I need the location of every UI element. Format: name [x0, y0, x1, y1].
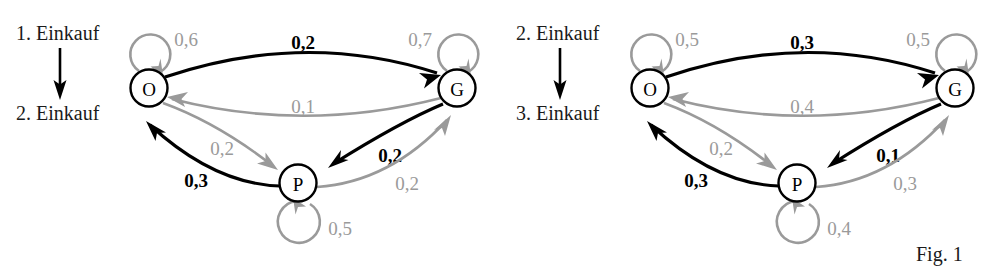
node-p-right: P [779, 165, 816, 202]
g-self-loop-path-left [438, 35, 478, 72]
edge-label-p-self-left: 0,5 [328, 218, 352, 239]
o-self-loop-path-left [130, 35, 170, 72]
node-p-label-right: P [792, 174, 803, 195]
g-to-p-arrowhead-right [827, 150, 848, 168]
panel-left: 1. Einkauf 2. Einkauf 0,6 0,7 0,5 0, [16, 22, 478, 243]
figure-caption: Fig. 1 [916, 243, 963, 266]
step-annotation-right: 2. Einkauf 3. Einkauf [516, 22, 600, 124]
edge-label-p-to-o-left: 0,3 [184, 170, 208, 191]
edge-p-self-right: 0,4 [777, 198, 852, 243]
edge-label-p-to-g-right: 0,3 [893, 173, 917, 194]
p-self-loop-path-left [278, 201, 320, 243]
edge-label-o-to-p-right: 0,2 [709, 138, 733, 159]
edge-label-o-to-g-right: 0,3 [790, 32, 814, 53]
edge-label-o-to-p-left: 0,2 [210, 138, 234, 159]
node-o-label-right: O [643, 79, 657, 100]
node-p-left: P [280, 165, 317, 202]
g-to-p-arrowhead-left [328, 150, 349, 168]
node-g-label-left: G [450, 79, 464, 100]
node-o-label-left: O [142, 79, 156, 100]
edge-label-g-to-o-left: 0,1 [291, 96, 315, 117]
edge-label-o-self-right: 0,5 [675, 29, 699, 50]
edge-label-g-self-left: 0,7 [408, 29, 432, 50]
edge-label-p-to-g-left: 0,2 [395, 173, 419, 194]
panel-right: 2. Einkauf 3. Einkauf 0,5 0,5 0,4 0, [516, 22, 976, 243]
edge-g-to-o-right: 0,4 [668, 92, 939, 117]
p-to-g-arrowhead-left [434, 115, 451, 136]
edge-label-p-to-o-right: 0,3 [684, 170, 708, 191]
step-to-label-right: 3. Einkauf [516, 102, 600, 124]
node-g-label-right: G [948, 79, 962, 100]
edge-label-o-self-left: 0,6 [174, 29, 198, 50]
node-g-left: G [439, 70, 476, 107]
edge-p-self-left: 0,5 [278, 198, 352, 243]
edge-label-g-to-o-right: 0,4 [790, 96, 814, 117]
edge-g-to-o-left: 0,1 [167, 92, 441, 117]
g-self-loop-path-right [936, 35, 976, 72]
edge-label-g-self-right: 0,5 [906, 29, 930, 50]
edge-label-o-to-g-left: 0,2 [291, 32, 315, 53]
node-o-left: O [131, 70, 168, 107]
step-from-label-right: 2. Einkauf [516, 22, 600, 44]
step-annotation-left: 1. Einkauf 2. Einkauf [16, 22, 100, 124]
node-o-right: O [632, 70, 669, 107]
step-from-label-left: 1. Einkauf [16, 22, 100, 44]
figure-container: 1. Einkauf 2. Einkauf 0,6 0,7 0,5 0, [0, 0, 995, 278]
step-to-label-left: 2. Einkauf [16, 102, 100, 124]
edge-o-to-g-left: 0,2 [165, 32, 441, 89]
edge-label-g-to-p-left: 0,2 [378, 145, 402, 166]
node-p-label-left: P [293, 174, 304, 195]
o-to-g-path-left [165, 52, 437, 77]
node-g-right: G [937, 70, 974, 107]
p-to-g-arrowhead-right [932, 115, 949, 136]
o-self-loop-path-right [631, 35, 671, 72]
edge-label-p-self-right: 0,4 [827, 218, 851, 239]
p-self-loop-path-right [777, 201, 819, 243]
o-to-g-path-right [666, 52, 935, 77]
edge-o-to-g-right: 0,3 [666, 32, 939, 89]
